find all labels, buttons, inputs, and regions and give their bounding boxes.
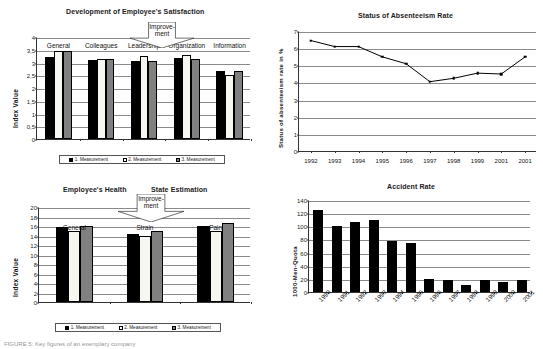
- chart-panel-health: Employee's Health State Estimation Index…: [0, 175, 272, 349]
- callout-line2-health: ment: [118, 203, 184, 210]
- chart-panel-satisfaction: Development of Employee's Satisfaction I…: [0, 0, 272, 175]
- x-tick-mark-absenteeism-2: [359, 151, 360, 153]
- y-tick-mark-health-4: [37, 284, 39, 285]
- x-axis-label-absenteeism-2: 1994: [352, 158, 365, 164]
- line-series-absenteeism: [299, 32, 537, 152]
- y-tick-label-absenteeism-2: 2: [294, 115, 297, 121]
- y-tick-label-accident-100: 100: [297, 224, 307, 230]
- y-tick-label-accident-40: 40: [300, 264, 307, 270]
- legend-satisfaction: 1. Measurement2. Measurement3. Measureme…: [59, 155, 225, 164]
- y-tick-mark-health-0: [37, 303, 39, 304]
- bar-accident-2001: [517, 280, 527, 292]
- data-point-absenteeism-6: [452, 77, 455, 80]
- y-tick-label-health-8: 8: [34, 262, 37, 268]
- callout-text-satisfaction: Improve-ment: [130, 24, 194, 38]
- bar-accident-1994: [387, 241, 397, 292]
- x-tick-mark-satisfaction-2: [165, 139, 166, 141]
- legend-label-hlt-3: 3. Measurement: [177, 325, 210, 330]
- x-axis-label-absenteeism-6: 1998: [447, 158, 460, 164]
- legend-swatch-hlt-3: [172, 326, 176, 330]
- bar-accident-1995: [406, 243, 416, 292]
- bar-satisfaction-general-m1: [45, 57, 54, 139]
- bar-health-pain-m3: [222, 223, 234, 302]
- figure-page: Development of Employee's Satisfaction I…: [0, 0, 543, 349]
- bar-satisfaction-organization-m1: [174, 58, 183, 139]
- y-tick-label-satisfaction-2.5: 2,5: [27, 73, 35, 79]
- x-axis-label-health-strain: Strain: [137, 224, 154, 231]
- legend-label-hlt-2: 2. Measurement: [124, 325, 157, 330]
- y-tick-mark-accident-140: [307, 201, 309, 202]
- bar-satisfaction-leadership-m2: [140, 56, 149, 139]
- y-tick-mark-health-8: [37, 265, 39, 266]
- bar-satisfaction-organization-m3: [191, 59, 200, 139]
- legend-health: 1. Measurement2. Measurement3. Measureme…: [55, 323, 221, 332]
- gridline-accident-60: [309, 254, 530, 255]
- bar-satisfaction-general-m3: [63, 51, 72, 139]
- legend-item-hlt-1: 1. Measurement: [65, 325, 104, 330]
- legend-label-sat-2: 2. Measurement: [128, 157, 161, 162]
- legend-label-sat-3: 3. Measurement: [181, 157, 214, 162]
- chart-title-health-left: Employee's Health: [63, 186, 127, 193]
- x-tick-mark-satisfaction-4: [251, 139, 252, 141]
- callout-health: Improve-ment: [118, 194, 184, 222]
- bar-satisfaction-information-m3: [234, 71, 243, 139]
- bar-health-strain-m1: [127, 234, 139, 302]
- data-point-absenteeism-8: [500, 73, 503, 76]
- y-tick-mark-satisfaction-0.5: [35, 127, 37, 128]
- y-tick-label-absenteeism-6: 6: [294, 46, 297, 52]
- x-tick-mark-absenteeism-5: [430, 151, 431, 153]
- figure-caption: FIGURE 5: Key figures of an exemplary co…: [4, 341, 135, 347]
- x-axis-label-absenteeism-8: 2001: [495, 158, 508, 164]
- y-tick-label-absenteeism-4: 4: [294, 80, 297, 86]
- legend-item-sat-1: 1. Measurement: [69, 157, 108, 162]
- y-tick-label-health-16: 16: [30, 224, 37, 230]
- x-tick-mark-absenteeism-0: [311, 151, 312, 153]
- x-axis-label-absenteeism-0: 1992: [304, 158, 317, 164]
- y-tick-label-absenteeism-3: 3: [294, 98, 297, 104]
- bar-satisfaction-organization-m2: [182, 55, 191, 139]
- bar-accident-2000: [498, 282, 508, 293]
- bar-health-general-m1: [56, 227, 68, 302]
- data-point-absenteeism-5: [429, 80, 432, 83]
- bar-satisfaction-leadership-m3: [148, 61, 157, 139]
- gridline-accident-120: [309, 214, 530, 215]
- x-axis-label-satisfaction-colleagues: Colleagues: [85, 42, 118, 49]
- gridline-accident-80: [309, 240, 530, 241]
- legend-item-hlt-3: 3. Measurement: [172, 325, 211, 330]
- y-tick-mark-satisfaction-1.5: [35, 101, 37, 102]
- chart-panel-accident: Accident Rate 1000-Men-Quota 02040608010…: [272, 175, 543, 349]
- y-tick-label-health-10: 10: [30, 253, 37, 259]
- data-point-absenteeism-1: [333, 45, 336, 48]
- x-tick-mark-absenteeism-9: [525, 151, 526, 153]
- bar-satisfaction-information-m1: [216, 71, 225, 139]
- bar-health-strain-m3: [151, 231, 163, 302]
- y-axis-label-satisfaction: Index Value: [12, 89, 19, 128]
- x-axis-label-health-pain: Pain: [209, 224, 222, 231]
- x-tick-mark-absenteeism-4: [406, 151, 407, 153]
- bar-accident-1990: [313, 210, 323, 292]
- y-tick-label-accident-80: 80: [300, 237, 307, 243]
- x-tick-mark-health-1: [180, 302, 181, 304]
- bar-accident-1997: [443, 280, 453, 292]
- y-tick-label-health-0: 0: [34, 300, 37, 306]
- y-tick-mark-satisfaction-3.5: [35, 50, 37, 51]
- y-tick-label-accident-0: 0: [304, 290, 307, 296]
- y-tick-label-health-4: 4: [34, 281, 37, 287]
- y-tick-mark-satisfaction-4: [35, 38, 37, 39]
- y-tick-mark-health-2: [37, 293, 39, 294]
- plot-area-absenteeism: 0123456719921993199419951996199719981999…: [298, 32, 536, 152]
- x-tick-mark-absenteeism-7: [478, 151, 479, 153]
- bar-health-general-m3: [80, 226, 92, 302]
- y-tick-label-health-14: 14: [30, 234, 37, 240]
- chart-title-absenteeism: Status of Absenteeism Rate: [358, 12, 453, 19]
- bar-satisfaction-leadership-m1: [131, 61, 140, 139]
- chart-title-accident: Accident Rate: [387, 183, 435, 190]
- y-tick-label-health-20: 20: [30, 205, 37, 211]
- data-point-absenteeism-9: [524, 56, 527, 59]
- y-tick-label-absenteeism-0: 0: [294, 149, 297, 155]
- callout-text-health: Improve-ment: [118, 196, 184, 210]
- y-tick-mark-accident-120: [307, 214, 309, 215]
- y-tick-label-absenteeism-1: 1: [294, 132, 297, 138]
- y-tick-mark-satisfaction-3: [35, 63, 37, 64]
- legend-swatch-sat-3: [176, 158, 180, 162]
